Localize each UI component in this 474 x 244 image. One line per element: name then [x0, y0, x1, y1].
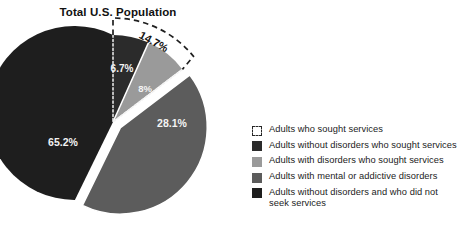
pie-label-8: 8%: [138, 83, 152, 94]
pie-label-28-1: 28.1%: [157, 117, 187, 129]
legend-label-with-disorders-sought: Adults with disorders who sought service…: [269, 155, 444, 166]
legend-swatch-dark-icon: [252, 141, 262, 151]
legend-swatch-medium-gray-icon: [252, 173, 262, 183]
legend-label-sought-services: Adults who sought services: [269, 124, 383, 135]
legend-label-without-disorders-sought: Adults without disorders who sought serv…: [269, 140, 457, 151]
legend-item-mental-or-addictive[interactable]: Adults with mental or addictive disorder…: [252, 171, 474, 183]
pie-chart-graphic: 14.7% 6.7% 8% 28.1% 65.2%: [0, 0, 244, 244]
legend-swatch-black-icon: [252, 188, 262, 198]
pie-slice-without-disorders-not-sought: [0, 26, 113, 200]
pie-label-6-7: 6.7%: [111, 63, 134, 74]
chart-legend: Adults who sought services Adults withou…: [252, 124, 474, 213]
pie-chart-figure: Total U.S. Population 14.7% 6.7% 8% 28.1…: [0, 0, 474, 244]
legend-item-with-disorders-sought[interactable]: Adults with disorders who sought service…: [252, 155, 474, 167]
legend-label-mental-or-addictive: Adults with mental or addictive disorder…: [269, 171, 437, 182]
pie-label-65-2: 65.2%: [48, 136, 78, 148]
legend-item-sought-services[interactable]: Adults who sought services: [252, 124, 474, 136]
legend-item-without-disorders-not-sought[interactable]: Adults without disorders and who did not…: [252, 187, 474, 209]
legend-swatch-dashed-outline-icon: [252, 126, 262, 136]
legend-item-without-disorders-sought[interactable]: Adults without disorders who sought serv…: [252, 140, 474, 152]
legend-swatch-light-gray-icon: [252, 157, 262, 167]
legend-label-without-disorders-not-sought: Adults without disorders and who did not…: [269, 187, 438, 209]
